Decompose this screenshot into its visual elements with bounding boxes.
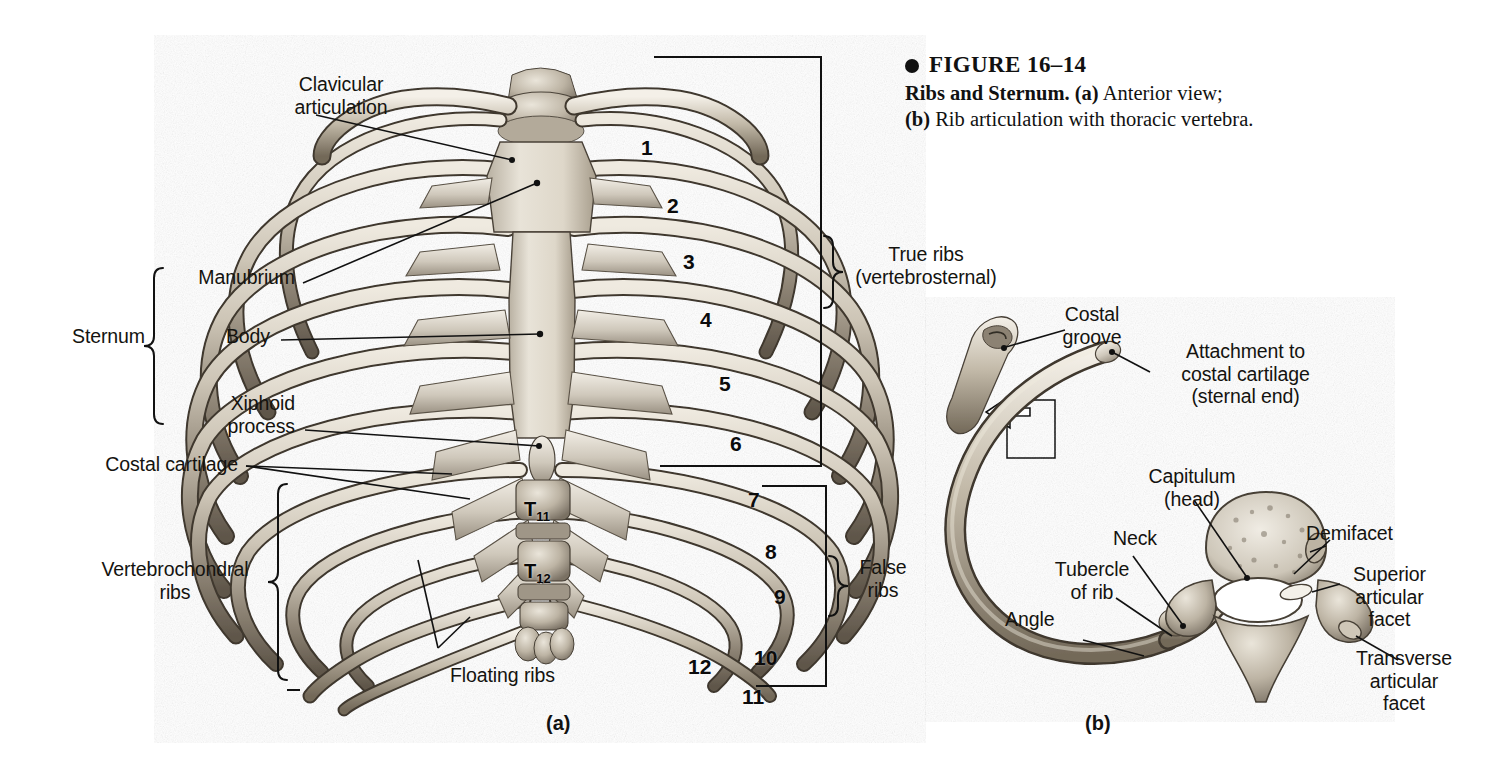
rib-number-1: 1 (641, 136, 653, 160)
label-costal-groove: Costal groove (1037, 303, 1147, 348)
label-superior-articular-facet: Superior articular facet (1327, 563, 1452, 631)
label-clavicular-articulation: Clavicular articulation (251, 73, 431, 118)
caption-part-a-text: Anterior view; (1103, 82, 1223, 104)
label-sternum: Sternum (20, 325, 145, 348)
leader-capitulum (1194, 500, 1246, 576)
rib-number-8: 8 (765, 540, 777, 564)
leader-tubercle (1116, 598, 1172, 636)
costal-cartilages (404, 178, 678, 618)
vertebral-foramen (1214, 578, 1302, 622)
brace-vertebrochondral (268, 484, 287, 680)
xiphoid-shape (529, 436, 555, 484)
sternum (487, 142, 596, 484)
leader-floating-rib-1 (418, 560, 438, 648)
label-attachment-costal-cartilage: Attachment to costal cartilage (sternal … (1148, 340, 1343, 408)
caption-body: Ribs and Sternum. (a) Anterior view; (b)… (905, 81, 1465, 132)
leader-clavicular-articulation (316, 115, 512, 160)
rib-number-5: 5 (719, 372, 731, 396)
figure-root: FIGURE 16–14 Ribs and Sternum. (a) Anter… (0, 0, 1507, 767)
costal-groove-segment (947, 317, 1018, 434)
manubrium-shape (487, 142, 596, 232)
label-true-ribs: True ribs (vertebrosternal) (836, 243, 1016, 288)
leader-demifacet (1310, 546, 1326, 552)
label-floating-ribs: Floating ribs (450, 664, 640, 687)
label-false-ribs: False ribs (838, 556, 928, 601)
thoracic-spine (495, 68, 587, 470)
label-body: Body (140, 325, 270, 348)
rib-neck-tubercle-head (1159, 571, 1263, 640)
rib-number-2: 2 (667, 194, 679, 218)
rib-number-10: 10 (754, 646, 777, 670)
rib-number-4: 4 (700, 308, 712, 332)
caption-heading: FIGURE 16–14 (905, 52, 1465, 78)
leader-xiphoid-process (305, 430, 539, 446)
leader-floating-rib-2 (438, 617, 470, 648)
label-transverse-articular-facet: Transverse articular facet (1334, 647, 1474, 715)
leader-body (281, 334, 540, 340)
bracket-true-ribs (654, 57, 821, 466)
sternal-body-shape (509, 232, 575, 438)
leader-costal-cartilage-1 (246, 466, 452, 474)
vertebra-label-t12: T12 (524, 560, 551, 586)
superior-facet-shape (1279, 582, 1313, 602)
leader-angle (1083, 640, 1144, 656)
figure-caption: FIGURE 16–14 Ribs and Sternum. (a) Anter… (905, 52, 1465, 132)
panel-letter-b: (b) (1085, 712, 1111, 735)
label-capitulum: Capitulum (head) (1112, 465, 1272, 510)
caption-part-b-text: Rib articulation with thoracic vertebra. (935, 108, 1253, 130)
caption-part-a-marker: (a) (1075, 82, 1099, 104)
rib-number-7: 7 (748, 488, 760, 512)
rib-number-3: 3 (683, 250, 695, 274)
label-tubercle-of-rib: Tubercle of rib (1032, 558, 1152, 603)
floating-ribs-left (310, 600, 524, 710)
leader-demifacet-line (1294, 540, 1330, 574)
label-manubrium: Manubrium (120, 266, 295, 289)
leader-attachment (1112, 352, 1150, 372)
leader-manubrium (303, 183, 537, 283)
label-angle: Angle (1005, 608, 1095, 631)
rib-number-12: 12 (688, 655, 711, 679)
rib-number-9: 9 (774, 585, 786, 609)
caption-title: Ribs and Sternum. (905, 82, 1070, 104)
label-costal-cartilage: Costal cartilage (20, 453, 238, 476)
ribs-right-side (554, 119, 890, 696)
vertebra-label-t11: T11 (524, 498, 550, 524)
bullet-dot-icon (905, 59, 919, 73)
figure-number: FIGURE 16–14 (929, 52, 1087, 78)
label-xiphoid-process: Xiphoid process (130, 392, 295, 437)
label-neck: Neck (1090, 527, 1180, 550)
leader-costal-cartilage-2 (246, 466, 470, 499)
caption-part-b-marker: (b) (905, 108, 930, 130)
ribcage-illustration (190, 68, 890, 710)
label-vertebrochondral-ribs: Vertebrochondral ribs (80, 558, 270, 603)
rib-number-11: 11 (742, 685, 764, 709)
capitulum-shape (1237, 571, 1263, 593)
panel-letter-a: (a) (546, 712, 570, 735)
detail-box (1007, 400, 1055, 458)
label-demifacet: Demifacet (1306, 522, 1456, 545)
rib-number-6: 6 (730, 432, 742, 456)
groove-pointer-arrow (986, 396, 1055, 458)
tubercle-shape (1159, 608, 1193, 636)
